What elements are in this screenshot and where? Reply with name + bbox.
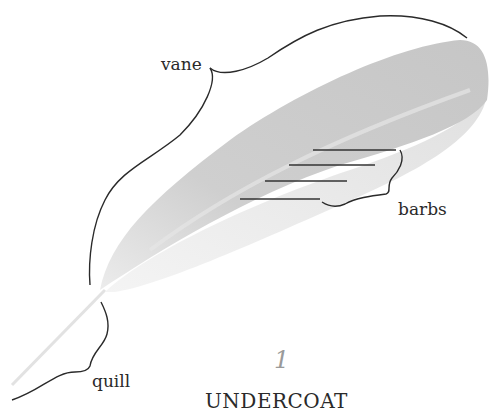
diagram-title: UNDERCOAT	[205, 389, 348, 413]
step-number: 1	[274, 346, 289, 374]
barbs-label: barbs	[398, 199, 447, 219]
vane-label: vane	[161, 54, 202, 74]
quill-label: quill	[92, 371, 130, 391]
